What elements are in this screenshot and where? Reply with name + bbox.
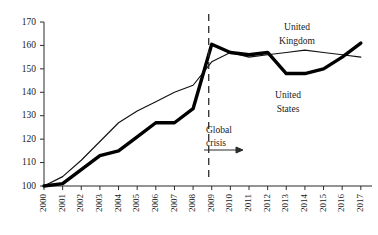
- x-tick-label-2000: 2000: [38, 194, 48, 213]
- x-tick-label-2006: 2006: [150, 194, 160, 213]
- y-tick-label-110: 110: [22, 157, 36, 167]
- global-crisis-annotation: Global crisis: [204, 14, 243, 179]
- x-tick-label-2003: 2003: [94, 194, 104, 213]
- x-tick-label-2017: 2017: [355, 194, 365, 213]
- label-united-states-line2: States: [277, 104, 300, 114]
- x-tick-label-2008: 2008: [187, 194, 197, 213]
- y-tick-label-120: 120: [22, 134, 37, 144]
- x-tick-group: 2000200120022003200420052006200720082009…: [38, 186, 365, 212]
- y-tick-label-100: 100: [22, 181, 37, 191]
- chart-canvas: 100110120130140150160170 200020012002200…: [0, 0, 378, 235]
- series-group: [44, 43, 361, 186]
- y-tick-label-170: 170: [22, 17, 37, 27]
- x-tick-label-2005: 2005: [131, 194, 141, 213]
- line-chart: 100110120130140150160170 200020012002200…: [0, 0, 378, 235]
- x-tick-label-2015: 2015: [318, 194, 328, 213]
- x-tick-label-2007: 2007: [169, 194, 179, 213]
- crisis-arrow-head: [236, 147, 243, 153]
- y-tick-label-150: 150: [22, 64, 37, 74]
- x-tick-label-2010: 2010: [224, 194, 234, 213]
- y-tick-label-160: 160: [22, 40, 37, 50]
- label-united-kingdom-line1: United: [284, 22, 310, 32]
- x-tick-label-2014: 2014: [299, 194, 309, 213]
- x-tick-label-2004: 2004: [113, 194, 123, 213]
- label-united-kingdom-line2: Kingdom: [279, 36, 316, 46]
- x-tick-label-2001: 2001: [57, 194, 67, 212]
- label-united-states-line1: United: [275, 90, 301, 100]
- y-tick-label-140: 140: [22, 87, 37, 97]
- x-tick-label-2012: 2012: [262, 194, 272, 212]
- x-tick-label-2002: 2002: [75, 194, 85, 212]
- crisis-label-line1: Global: [206, 125, 232, 135]
- crisis-label-line2: crisis: [206, 138, 226, 148]
- series-line-united-states: [44, 43, 361, 186]
- x-tick-label-2011: 2011: [243, 194, 253, 212]
- y-tick-label-130: 130: [22, 110, 37, 120]
- y-tick-group: 100110120130140150160170: [22, 17, 44, 191]
- x-tick-label-2009: 2009: [206, 194, 216, 213]
- x-tick-label-2016: 2016: [336, 194, 346, 213]
- x-tick-label-2013: 2013: [280, 194, 290, 213]
